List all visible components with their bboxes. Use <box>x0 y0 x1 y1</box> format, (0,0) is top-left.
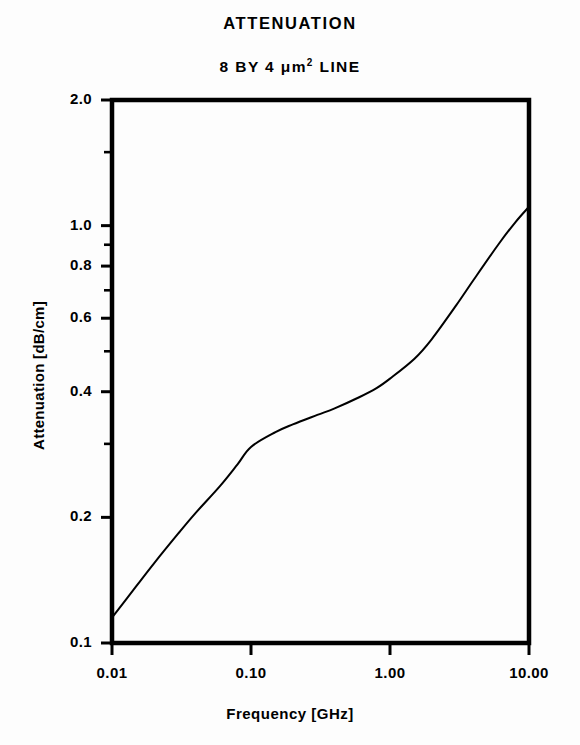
data-line-attenuation <box>112 207 529 618</box>
y-tick-label: 1.0 <box>30 216 92 233</box>
y-tick-label: 0.1 <box>30 633 92 650</box>
x-tick-label: 0.01 <box>67 664 157 681</box>
x-axis-label: Frequency [GHz] <box>0 705 580 722</box>
x-tick-label: 1.00 <box>345 664 435 681</box>
plot-frame <box>112 100 529 643</box>
chart-page: ATTENUATION 8 BY 4 μm2 LINE 0.10.20.40.6… <box>0 0 580 745</box>
y-axis-label: Attenuation [dB/cm] <box>30 300 47 449</box>
y-tick-label: 2.0 <box>30 90 92 107</box>
y-tick-label: 0.8 <box>30 256 92 273</box>
x-tick-label: 0.10 <box>206 664 296 681</box>
x-tick-label: 10.00 <box>484 664 574 681</box>
y-tick-label: 0.2 <box>30 507 92 524</box>
